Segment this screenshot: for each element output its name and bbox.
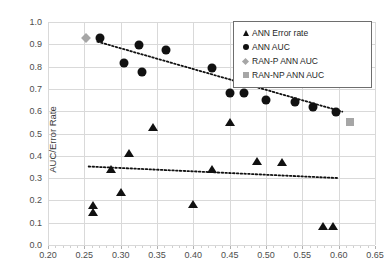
data-point-circle bbox=[262, 95, 271, 104]
data-point-triangle bbox=[148, 123, 158, 131]
x-axis-minor-tick bbox=[208, 246, 209, 248]
x-axis-minor-tick bbox=[331, 246, 332, 248]
x-axis-minor-tick bbox=[150, 246, 151, 248]
x-axis-minor-tick bbox=[259, 246, 260, 248]
data-point-triangle bbox=[106, 165, 116, 173]
x-axis-major-tick bbox=[266, 246, 267, 249]
x-axis-major-tick bbox=[339, 246, 340, 249]
x-axis-minor-tick bbox=[281, 246, 282, 248]
data-point-circle bbox=[96, 33, 105, 42]
x-axis-minor-tick bbox=[99, 246, 100, 248]
x-tick-label: 0.40 bbox=[173, 250, 213, 260]
x-axis-major-tick bbox=[375, 246, 376, 249]
x-axis-minor-tick bbox=[251, 246, 252, 248]
x-axis-minor-tick bbox=[353, 246, 354, 248]
x-axis-minor-tick bbox=[63, 246, 64, 248]
x-axis-minor-tick bbox=[55, 246, 56, 248]
legend-item-triangle: ANN Error rate bbox=[239, 26, 366, 40]
data-point-circle bbox=[207, 64, 216, 73]
x-axis-major-tick bbox=[48, 246, 49, 249]
x-axis-minor-tick bbox=[70, 246, 71, 248]
gridline-vertical bbox=[121, 22, 122, 245]
data-point-circle bbox=[134, 40, 143, 49]
gridline-vertical bbox=[193, 22, 194, 245]
legend-item-label: ANN Error rate bbox=[252, 28, 308, 38]
y-tick-label: 0.2 bbox=[0, 195, 42, 205]
data-point-triangle bbox=[207, 165, 217, 173]
y-tick-label: 0.4 bbox=[0, 151, 42, 161]
data-point-circle bbox=[332, 107, 341, 116]
x-tick-label: 0.55 bbox=[282, 250, 322, 260]
x-axis-minor-tick bbox=[237, 246, 238, 248]
x-axis-minor-tick bbox=[172, 246, 173, 248]
x-axis-minor-tick bbox=[128, 246, 129, 248]
y-tick-label: 0.0 bbox=[0, 240, 42, 250]
data-point-triangle bbox=[116, 188, 126, 196]
gridline-horizontal bbox=[48, 245, 375, 246]
x-axis-minor-tick bbox=[215, 246, 216, 248]
data-point-circle bbox=[138, 68, 147, 77]
data-point-circle bbox=[240, 88, 249, 97]
data-point-triangle bbox=[252, 157, 262, 165]
x-axis-minor-tick bbox=[360, 246, 361, 248]
chart-legend: ANN Error rateANN AUCRAN-P ANN AUCRAN-NP… bbox=[233, 21, 372, 88]
gridline-horizontal bbox=[48, 156, 375, 157]
data-point-triangle bbox=[277, 158, 287, 166]
data-point-square bbox=[346, 118, 354, 126]
gridline-horizontal bbox=[48, 134, 375, 135]
x-axis-minor-tick bbox=[324, 246, 325, 248]
gridline-vertical bbox=[230, 22, 231, 245]
x-axis-minor-tick bbox=[295, 246, 296, 248]
x-axis-major-tick bbox=[121, 246, 122, 249]
x-axis-minor-tick bbox=[186, 246, 187, 248]
x-axis-minor-tick bbox=[346, 246, 347, 248]
x-axis-minor-tick bbox=[142, 246, 143, 248]
x-tick-label: 0.25 bbox=[64, 250, 104, 260]
diamond-marker-icon bbox=[239, 59, 252, 64]
x-axis-minor-tick bbox=[317, 246, 318, 248]
x-axis-minor-tick bbox=[77, 246, 78, 248]
x-axis-minor-tick bbox=[135, 246, 136, 248]
x-axis-major-tick bbox=[302, 246, 303, 249]
gridline-vertical bbox=[157, 22, 158, 245]
square-marker-icon bbox=[239, 72, 252, 78]
gridline-horizontal bbox=[48, 89, 375, 90]
legend-item-circle: ANN AUC bbox=[239, 40, 366, 54]
gridline-vertical bbox=[84, 22, 85, 245]
x-axis-minor-tick bbox=[244, 246, 245, 248]
data-point-circle bbox=[225, 88, 234, 97]
data-point-triangle bbox=[124, 149, 134, 157]
y-tick-label: 0.5 bbox=[0, 129, 42, 139]
x-axis-major-tick bbox=[193, 246, 194, 249]
data-point-circle bbox=[309, 103, 318, 112]
x-tick-label: 0.60 bbox=[319, 250, 359, 260]
data-point-diamond bbox=[81, 33, 91, 43]
x-axis-minor-tick bbox=[92, 246, 93, 248]
y-tick-label: 0.3 bbox=[0, 173, 42, 183]
x-axis-minor-tick bbox=[113, 246, 114, 248]
y-tick-label: 0.1 bbox=[0, 218, 42, 228]
legend-item-label: RAN-NP ANN AUC bbox=[252, 70, 324, 80]
data-point-circle bbox=[120, 59, 129, 68]
x-axis-major-tick bbox=[84, 246, 85, 249]
data-point-triangle bbox=[88, 208, 98, 216]
legend-item-diamond: RAN-P ANN AUC bbox=[239, 54, 366, 68]
gridline-vertical bbox=[375, 22, 376, 245]
x-axis-minor-tick bbox=[164, 246, 165, 248]
legend-item-label: ANN AUC bbox=[252, 42, 290, 52]
data-point-triangle bbox=[318, 222, 328, 230]
x-tick-label: 0.35 bbox=[137, 250, 177, 260]
data-point-triangle bbox=[328, 222, 338, 230]
x-tick-label: 0.65 bbox=[355, 250, 388, 260]
x-tick-label: 0.20 bbox=[28, 250, 68, 260]
x-tick-label: 0.45 bbox=[210, 250, 250, 260]
x-axis-minor-tick bbox=[288, 246, 289, 248]
gridline-horizontal bbox=[48, 111, 375, 112]
x-axis-major-tick bbox=[157, 246, 158, 249]
data-point-triangle bbox=[225, 118, 235, 126]
data-point-triangle bbox=[188, 200, 198, 208]
data-point-circle bbox=[162, 46, 171, 55]
x-axis-minor-tick bbox=[222, 246, 223, 248]
x-tick-label: 0.30 bbox=[101, 250, 141, 260]
legend-item-label: RAN-P ANN AUC bbox=[252, 56, 318, 66]
